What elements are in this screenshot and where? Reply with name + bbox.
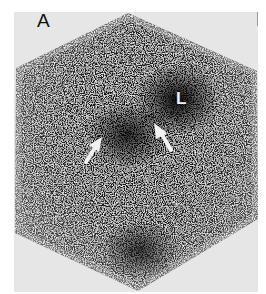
panel-label: A (37, 11, 50, 30)
micrograph-particle (0, 0, 266, 294)
region-label: L (176, 90, 186, 107)
